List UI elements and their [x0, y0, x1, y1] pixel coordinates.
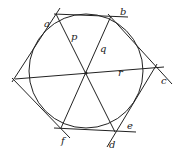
label-b: b: [120, 7, 126, 17]
side-c2: [107, 64, 157, 147]
label-r: r: [118, 68, 123, 78]
label-q: q: [100, 44, 106, 54]
side-f: [12, 78, 70, 138]
hexagon-circle-diagram: a b c d e f p q r: [0, 0, 177, 153]
label-e: e: [127, 121, 133, 131]
label-p: p: [71, 32, 77, 42]
label-a: a: [44, 19, 50, 29]
label-d: d: [109, 140, 115, 150]
label-c: c: [161, 76, 167, 86]
diagonal-r: [15, 67, 164, 79]
label-f: f: [61, 136, 65, 146]
center-point: [85, 72, 88, 75]
diagram-canvas: [0, 0, 177, 153]
side-e: [54, 128, 136, 132]
side-a: [12, 8, 60, 82]
